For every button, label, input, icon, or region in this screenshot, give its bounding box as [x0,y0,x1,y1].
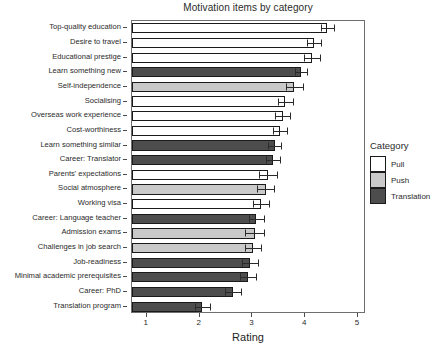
y-axis-tick [123,27,127,28]
error-bar [245,248,262,249]
y-axis-tick-label: Minimal academic prerequisites [15,272,121,280]
error-bar [304,58,320,59]
error-bar-cap [334,25,335,32]
y-axis-tick [123,42,127,43]
bar-row [132,170,364,180]
error-bar [286,87,303,88]
error-bar-cap [275,113,276,120]
bar-row [132,82,364,92]
error-bar [268,146,282,147]
error-bar-cap [249,215,250,222]
error-bar [257,189,274,190]
error-bar-cap [253,201,254,208]
y-axis-tick [123,218,127,219]
x-axis-tick-label: 2 [196,318,200,327]
x-axis-tick-label: 4 [302,318,306,327]
y-axis-tick [123,115,127,116]
x-axis-tick [199,313,200,317]
error-bar-cap [320,54,321,61]
error-bar-cap [256,274,257,281]
bar [132,243,253,253]
error-bar-cap [264,215,265,222]
error-bar [195,307,210,308]
error-bar [273,131,288,132]
x-axis-tick [304,313,305,317]
bar [132,155,273,165]
error-bar-cap [303,83,304,90]
error-bar [253,204,269,205]
y-axis-tick-label: Job-readiness [73,258,121,266]
x-axis-tick-label: 3 [249,318,253,327]
bar-row [132,287,364,297]
error-bar [321,28,334,29]
bar [132,287,233,297]
y-axis-tick [123,145,127,146]
x-axis-tick-label: 1 [144,318,148,327]
error-bar [275,116,290,117]
error-bar [225,292,241,293]
legend-title: Category [370,140,442,151]
error-bar-cap [274,186,275,193]
bar-row [132,199,364,209]
bar-row [132,214,364,224]
error-bar-cap [259,171,260,178]
bar-row [132,38,364,48]
y-axis-tick-label: Admission exams [61,228,121,236]
error-bar-cap [240,274,241,281]
error-bar-cap [307,39,308,46]
error-bar-cap [195,303,196,310]
legend-item[interactable]: Translation [370,188,442,204]
bar-row [132,96,364,106]
bar-row [132,53,364,63]
y-axis-tick-label: Working visa [78,199,121,207]
legend-item[interactable]: Pull [370,156,442,172]
y-axis-tick-label: Social atmosphere [58,184,121,192]
y-axis-tick [123,159,127,160]
x-axis-tick [251,313,252,317]
bar [132,199,261,209]
bar [132,96,285,106]
legend-key-swatch [370,172,386,188]
error-bar-cap [268,142,269,149]
y-axis-tick [123,291,127,292]
y-axis-tick-label: Socialising [85,97,121,105]
bar [132,38,314,48]
error-bar-cap [286,83,287,90]
error-bar [259,175,277,176]
x-axis-title: Rating [131,331,365,343]
error-bar-cap [321,39,322,46]
bar-row [132,243,364,253]
legend-item[interactable]: Push [370,172,442,188]
legend: Category PullPushTranslation [370,140,442,204]
error-bar-cap [277,171,278,178]
bar [132,23,327,33]
error-bar [266,160,280,161]
plot-panel [131,20,365,313]
motivation-bar-chart: Motivation items by category Top-quality… [0,0,442,359]
error-bar-cap [278,98,279,105]
error-bar [295,72,308,73]
error-bar-cap [210,303,211,310]
y-axis-tick [123,130,127,131]
bar-row [132,111,364,121]
y-axis-tick-label: Learn something similar [40,141,121,149]
y-axis-tick-label: Career: Translator [60,155,121,163]
error-bar [245,233,264,234]
bar [132,140,275,150]
error-bar-cap [304,54,305,61]
error-bar-cap [266,157,267,164]
error-bar-cap [258,259,259,266]
error-bar-cap [257,186,258,193]
y-axis-tick-label: Cost-worthiness [67,126,121,134]
bar [132,228,255,238]
y-axis-tick [123,71,127,72]
bar [132,53,312,63]
error-bar-cap [287,127,288,134]
error-bar-cap [264,230,265,237]
bar [132,214,256,224]
y-axis-tick-label: Learn something new [48,67,121,75]
error-bar [307,43,321,44]
y-axis-tick [123,203,127,204]
error-bar-cap [295,69,296,76]
y-axis-tick [123,247,127,248]
